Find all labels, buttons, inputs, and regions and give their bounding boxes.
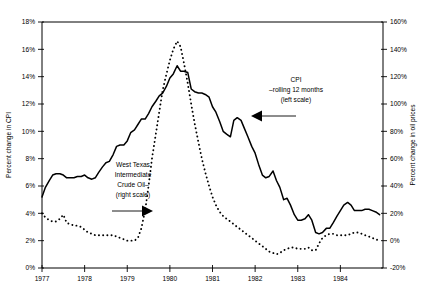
x-tick-label: 1981 (205, 275, 220, 282)
right-tick-label: -20% (390, 264, 406, 271)
oil-annotation-line-2: Crude Oil– (117, 181, 149, 188)
x-tick-label: 1983 (290, 275, 305, 282)
oil-annotation: West Texas Intermediate Crude Oil– (righ… (112, 161, 153, 217)
right-tick-label: 80% (390, 128, 403, 135)
right-axis-title: Percent change in oil prices (409, 104, 417, 186)
cpi-annotation: CPI –rolling 12 months (left scale) (251, 76, 324, 122)
oil-annotation-line-3: (right scale) (116, 191, 150, 199)
left-tick-label: 8% (25, 155, 35, 162)
cpi-annotation-line-1: –rolling 12 months (269, 86, 324, 94)
x-tick-label: 1977 (35, 275, 50, 282)
right-tick-label: 160% (390, 18, 407, 25)
right-tick-label: 20% (390, 210, 403, 217)
cpi-annotation-line-0: CPI (291, 76, 302, 83)
right-tick-label: 100% (390, 100, 407, 107)
series-line-cpi (42, 66, 380, 234)
left-axis-ticks: 0%2%4%6%8%10%12%14%16%18% (22, 18, 44, 271)
left-tick-label: 18% (22, 18, 35, 25)
series-line-oil (42, 41, 380, 254)
cpi-annotation-line-2: (left scale) (281, 96, 311, 104)
x-tick-label: 1984 (333, 275, 348, 282)
cpi-annotation-arrow-head (251, 111, 262, 122)
chart-figure: 0%2%4%6%8%10%12%14%16%18% -20%0%20%40%60… (0, 0, 424, 295)
left-tick-label: 10% (22, 128, 35, 135)
left-tick-label: 4% (25, 210, 35, 217)
right-tick-label: 0% (390, 237, 400, 244)
left-tick-label: 0% (25, 264, 35, 271)
plot-frame (42, 22, 383, 268)
x-tick-label: 1978 (77, 275, 92, 282)
x-tick-label: 1982 (248, 275, 263, 282)
right-tick-label: 120% (390, 73, 407, 80)
right-axis-ticks: -20%0%20%40%60%80%100%120%140%160% (381, 18, 407, 271)
left-tick-label: 12% (22, 100, 35, 107)
chart-svg: 0%2%4%6%8%10%12%14%16%18% -20%0%20%40%60… (0, 0, 424, 295)
x-tick-label: 1980 (163, 275, 178, 282)
left-axis-title: Percent change in CPI (5, 112, 13, 178)
left-tick-label: 16% (22, 46, 35, 53)
oil-annotation-line-0: West Texas (116, 161, 151, 168)
oil-annotation-arrow-head (142, 206, 153, 217)
left-tick-label: 6% (25, 182, 35, 189)
right-tick-label: 40% (390, 182, 403, 189)
right-tick-label: 140% (390, 46, 407, 53)
left-tick-label: 14% (22, 73, 35, 80)
right-tick-label: 60% (390, 155, 403, 162)
x-tick-label: 1979 (120, 275, 135, 282)
oil-annotation-line-1: Intermediate (115, 171, 152, 178)
left-tick-label: 2% (25, 237, 35, 244)
